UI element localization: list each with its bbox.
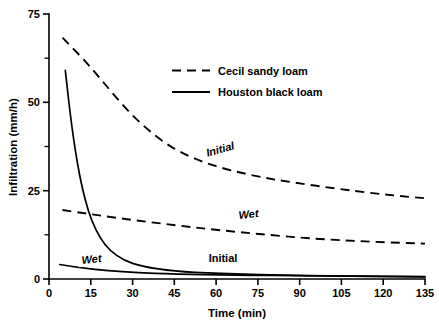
annotation-houston-wet-label: Wet bbox=[81, 252, 103, 266]
x-tick-label-105: 105 bbox=[332, 287, 350, 299]
y-tick-label-25: 25 bbox=[28, 185, 40, 197]
y-axis-title: Infiltration (mm/h) bbox=[7, 98, 19, 196]
x-tick-label-120: 120 bbox=[374, 287, 392, 299]
x-tick-label-45: 45 bbox=[168, 287, 180, 299]
x-tick-label-75: 75 bbox=[252, 287, 264, 299]
legend-label-cecil-sandy-loam: Cecil sandy loam bbox=[218, 65, 308, 77]
y-tick-label-75: 75 bbox=[28, 8, 40, 20]
annotation-cecil-wet-label: Wet bbox=[238, 207, 260, 221]
x-tick-label-60: 60 bbox=[210, 287, 222, 299]
chart-canvas: 75 50 25 0 0 15 30 45 60 75 90 105 120 1… bbox=[0, 0, 439, 322]
annotation-houston-wet: Wet bbox=[77, 251, 105, 268]
x-axis-title: Time (min) bbox=[208, 307, 266, 319]
x-tick-label-15: 15 bbox=[85, 287, 97, 299]
chart-legend: Cecil sandy loam Houston black loam bbox=[172, 65, 323, 99]
y-tick-label-0: 0 bbox=[34, 273, 40, 285]
x-tick-label-135: 135 bbox=[416, 287, 434, 299]
annotation-cecil-wet: Wet bbox=[233, 206, 263, 223]
legend-label-houston-black-loam: Houston black loam bbox=[218, 86, 323, 98]
x-tick-label-0: 0 bbox=[46, 287, 52, 299]
legend-item-houston-black-loam: Houston black loam bbox=[172, 86, 323, 98]
annotation-houston-initial-label: Initial bbox=[209, 252, 238, 264]
curve-cecil-initial bbox=[63, 38, 426, 199]
curve-houston-wet bbox=[60, 265, 425, 277]
x-tick-label-30: 30 bbox=[126, 287, 138, 299]
x-tick-label-90: 90 bbox=[294, 287, 306, 299]
x-axis-ticks bbox=[49, 279, 425, 285]
y-tick-label-50: 50 bbox=[28, 96, 40, 108]
infiltration-chart-figure: 75 50 25 0 0 15 30 45 60 75 90 105 120 1… bbox=[0, 0, 439, 322]
legend-item-cecil-sandy-loam: Cecil sandy loam bbox=[172, 65, 308, 77]
annotation-cecil-initial: Initial bbox=[201, 136, 240, 160]
